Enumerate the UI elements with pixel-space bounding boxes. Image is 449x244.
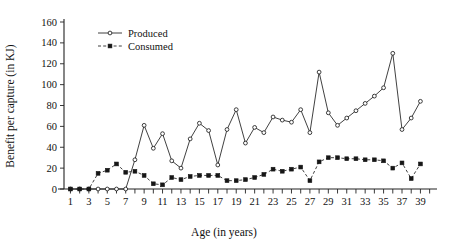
data-point-produced xyxy=(382,86,386,90)
data-point-consumed xyxy=(124,170,128,174)
data-point-consumed xyxy=(115,162,119,166)
y-tick-label: 80 xyxy=(47,100,58,111)
x-tick-label: 7 xyxy=(123,196,128,207)
legend-produced-label: Produced xyxy=(128,28,168,39)
data-point-consumed xyxy=(207,174,211,178)
x-tick-label: 37 xyxy=(397,196,408,207)
data-point-produced xyxy=(179,166,183,170)
x-tick-label: 23 xyxy=(268,196,279,207)
y-tick-label: 120 xyxy=(41,58,57,69)
x-tick-label: 3 xyxy=(86,196,91,207)
data-point-consumed xyxy=(345,157,349,161)
data-point-consumed xyxy=(188,175,192,179)
data-point-consumed xyxy=(419,162,423,166)
data-point-produced xyxy=(308,131,312,135)
data-point-consumed xyxy=(133,169,137,173)
data-point-produced xyxy=(225,128,229,132)
data-point-consumed xyxy=(105,168,109,172)
y-tick-label: 140 xyxy=(41,37,57,48)
chart-legend: ProducedConsumed xyxy=(98,28,174,52)
x-tick-label: 13 xyxy=(176,196,187,207)
data-point-produced xyxy=(207,129,211,133)
data-point-produced xyxy=(253,126,257,130)
data-point-produced xyxy=(354,109,358,113)
y-tick-label: 60 xyxy=(47,121,58,132)
data-point-produced xyxy=(161,132,165,136)
data-series-group xyxy=(69,51,423,190)
x-tick-label: 9 xyxy=(142,196,147,207)
data-point-consumed xyxy=(78,187,82,191)
data-point-consumed xyxy=(69,187,73,191)
data-point-consumed xyxy=(336,156,340,160)
data-point-consumed xyxy=(262,172,266,176)
series-line-produced xyxy=(70,53,420,189)
x-tick-label: 27 xyxy=(305,196,316,207)
benefit-per-capture-chart: 020406080100120140160 135791113151719212… xyxy=(0,0,449,244)
data-point-consumed xyxy=(197,174,201,178)
data-point-consumed xyxy=(308,179,312,183)
data-point-consumed xyxy=(216,174,220,178)
data-point-consumed xyxy=(253,176,257,180)
data-point-produced xyxy=(170,159,174,163)
data-point-consumed xyxy=(225,179,229,183)
x-tick-label: 21 xyxy=(249,196,260,207)
series-line-consumed xyxy=(70,158,420,189)
data-point-produced xyxy=(317,70,321,74)
data-point-produced xyxy=(271,115,275,119)
data-point-produced xyxy=(290,120,294,124)
y-tick-label: 0 xyxy=(52,184,57,195)
data-point-consumed xyxy=(87,187,91,191)
data-point-produced xyxy=(391,51,395,55)
data-point-produced xyxy=(216,163,220,167)
data-point-produced xyxy=(244,141,248,145)
x-tick-label: 19 xyxy=(231,196,242,207)
y-tick-label: 20 xyxy=(47,163,58,174)
data-point-produced xyxy=(336,123,340,127)
data-point-produced xyxy=(280,118,284,122)
data-point-consumed xyxy=(391,166,395,170)
data-point-produced xyxy=(151,146,155,150)
legend-produced-marker xyxy=(108,31,112,35)
x-tick-label: 33 xyxy=(360,196,371,207)
data-point-consumed xyxy=(234,179,238,183)
data-point-produced xyxy=(419,99,423,103)
data-point-consumed xyxy=(382,159,386,163)
data-point-produced xyxy=(363,102,367,106)
y-tick-label: 100 xyxy=(41,79,57,90)
data-point-produced xyxy=(188,137,192,141)
data-point-consumed xyxy=(409,177,413,181)
x-tick-label: 35 xyxy=(378,196,389,207)
data-point-produced xyxy=(197,121,201,125)
y-axis: 020406080100120140160 xyxy=(41,17,64,195)
x-tick-label: 11 xyxy=(157,196,167,207)
data-point-produced xyxy=(372,94,376,98)
x-tick-label: 1 xyxy=(68,196,73,207)
data-point-produced xyxy=(299,108,303,112)
data-point-produced xyxy=(142,123,146,127)
data-point-produced xyxy=(400,128,404,132)
data-point-consumed xyxy=(96,171,100,175)
data-point-consumed xyxy=(400,161,404,165)
data-point-consumed xyxy=(142,174,146,178)
data-point-consumed xyxy=(317,160,321,164)
data-point-consumed xyxy=(372,158,376,162)
data-point-produced xyxy=(326,111,330,115)
y-tick-label: 160 xyxy=(41,17,57,28)
data-point-produced xyxy=(124,187,128,191)
data-point-consumed xyxy=(244,178,248,182)
x-tick-label: 31 xyxy=(341,196,352,207)
data-point-consumed xyxy=(299,165,303,169)
data-point-produced xyxy=(133,158,137,162)
data-point-consumed xyxy=(290,167,294,171)
data-point-produced xyxy=(262,131,266,135)
data-point-consumed xyxy=(161,183,165,187)
data-point-produced xyxy=(96,187,100,191)
x-tick-label: 17 xyxy=(213,196,224,207)
data-point-consumed xyxy=(151,182,155,186)
legend-consumed-marker xyxy=(108,44,112,48)
data-point-consumed xyxy=(179,178,183,182)
data-point-consumed xyxy=(170,176,174,180)
data-point-produced xyxy=(115,187,119,191)
data-point-produced xyxy=(234,108,238,112)
data-point-consumed xyxy=(363,158,367,162)
